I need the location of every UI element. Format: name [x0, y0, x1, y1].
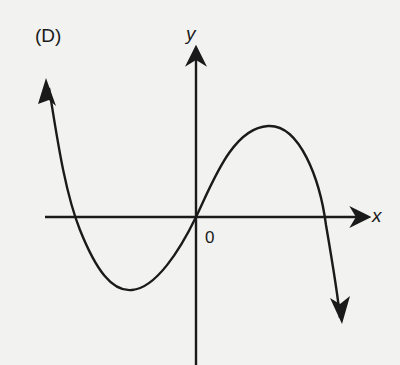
- origin-label: 0: [205, 229, 214, 246]
- x-axis-label: x: [372, 206, 382, 225]
- graph-canvas: [0, 0, 400, 365]
- y-axis-label: y: [186, 24, 196, 43]
- right-arrow-icon: [330, 296, 350, 324]
- panel-label: (D): [35, 26, 61, 45]
- left-arrow-icon: [38, 78, 56, 106]
- cubic-curve: [49, 88, 340, 318]
